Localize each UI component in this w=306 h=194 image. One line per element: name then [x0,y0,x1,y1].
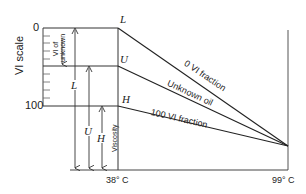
x-label-99c: 99° C [272,175,295,185]
viscosity-label: Viscosity [110,125,120,153]
point-L: L [120,14,126,24]
point-U: U [120,54,128,64]
point-H: H [122,94,130,104]
dim-U-label: U [84,126,92,136]
y-tick-0: 0 [33,22,39,32]
y-tick-100: 100 [25,100,43,110]
dim-L-label: L [71,80,77,90]
y-axis-title: VI scale [14,36,24,75]
x-label-38c: 38° C [106,175,129,185]
diagram-lines [0,0,306,194]
dim-H-label: H [97,133,105,143]
vi-diagram: VI scale 0 100 VI of unknown L U H Visco… [0,0,306,194]
vi-of-unknown-label: VI of unknown [52,36,66,62]
